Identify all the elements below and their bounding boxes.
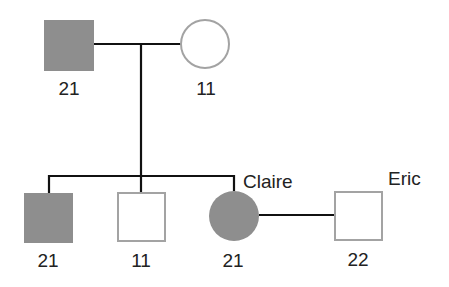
child2-genotype: 11	[131, 250, 151, 271]
father-affected-male	[44, 20, 94, 71]
mother-unaffected-female	[181, 20, 229, 68]
mother-genotype: 11	[196, 78, 216, 99]
child1-affected-male	[24, 193, 73, 243]
pedigree-diagram: 21 11 Claire Eric 21 11 21 22	[0, 0, 449, 287]
eric-unaffected-male	[335, 192, 382, 240]
father-genotype: 21	[58, 78, 79, 99]
child1-genotype: 21	[37, 250, 58, 271]
eric-name-label: Eric	[388, 168, 421, 189]
child2-unaffected-male	[118, 193, 165, 241]
claire-genotype: 21	[222, 250, 243, 271]
eric-genotype: 22	[347, 249, 368, 270]
claire-affected-female	[209, 191, 259, 241]
claire-name-label: Claire	[243, 171, 293, 192]
